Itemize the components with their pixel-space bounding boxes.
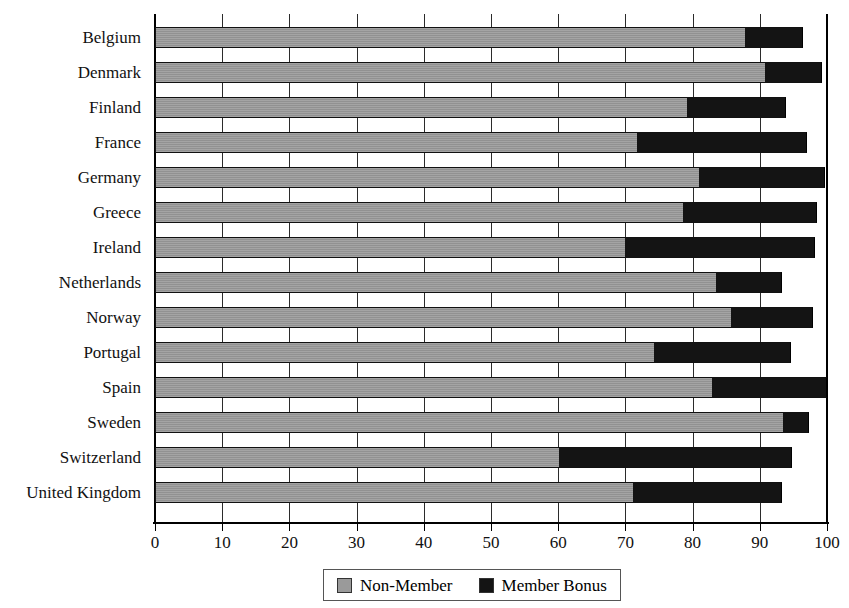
bar-segment-non-member <box>155 272 716 293</box>
x-tick-label-40: 40 <box>415 533 432 552</box>
gridline-0 <box>154 14 156 522</box>
bar-segment-member-bonus <box>654 342 790 363</box>
legend-swatch-icon <box>337 578 352 593</box>
bar-segment-non-member <box>155 27 745 48</box>
y-axis-label-denmark: Denmark <box>78 62 141 83</box>
x-tick-30 <box>357 524 358 531</box>
x-tick-10 <box>222 524 223 531</box>
gridline-60 <box>558 14 559 522</box>
x-tick-label-20: 20 <box>281 533 298 552</box>
gridline-70 <box>625 14 626 522</box>
plot-area <box>155 14 827 522</box>
cropped-title-remnant <box>0 0 849 8</box>
bar-segment-member-bonus <box>633 482 782 503</box>
x-tick-60 <box>558 524 559 531</box>
bar-segment-member-bonus <box>625 237 815 258</box>
bar-segment-non-member <box>155 62 765 83</box>
bar-segment-non-member <box>155 412 783 433</box>
bar-segment-member-bonus <box>637 132 807 153</box>
y-axis-label-united-kingdom: United Kingdom <box>26 482 141 503</box>
y-axis-category-labels: BelgiumDenmarkFinlandFranceGermanyGreece… <box>0 14 148 522</box>
x-tick-40 <box>424 524 425 531</box>
gridline-40 <box>424 14 425 522</box>
bar-segment-member-bonus <box>765 62 822 83</box>
gridline-90 <box>760 14 761 522</box>
x-tick-label-30: 30 <box>348 533 365 552</box>
x-tick-20 <box>289 524 290 531</box>
x-tick-80 <box>693 524 694 531</box>
bar-segment-non-member <box>155 202 683 223</box>
bar-segment-member-bonus <box>731 307 813 328</box>
gridline-10 <box>222 14 223 522</box>
y-axis-label-switzerland: Switzerland <box>60 447 141 468</box>
bar-segment-non-member <box>155 237 625 258</box>
chart-container: BelgiumDenmarkFinlandFranceGermanyGreece… <box>0 0 849 608</box>
x-axis: 0102030405060708090100 <box>155 522 827 523</box>
y-axis-label-france: France <box>95 132 141 153</box>
x-tick-50 <box>491 524 492 531</box>
bar-segment-member-bonus <box>559 447 792 468</box>
legend-entry-non-member: Non-Member <box>337 576 453 595</box>
legend-label: Member Bonus <box>502 576 607 595</box>
bar-segment-non-member <box>155 377 712 398</box>
bar-segment-non-member <box>155 342 654 363</box>
bar-segment-non-member <box>155 482 633 503</box>
y-axis-label-norway: Norway <box>86 307 141 328</box>
x-tick-label-90: 90 <box>751 533 768 552</box>
y-axis-label-greece: Greece <box>93 202 141 223</box>
bar-segment-member-bonus <box>783 412 809 433</box>
bar-segment-member-bonus <box>683 202 817 223</box>
legend-label: Non-Member <box>360 576 453 595</box>
bar-segment-member-bonus <box>716 272 782 293</box>
bar-segment-member-bonus <box>745 27 803 48</box>
gridline-100 <box>826 14 828 522</box>
x-tick-label-60: 60 <box>550 533 567 552</box>
x-tick-label-70: 70 <box>617 533 634 552</box>
gridline-30 <box>357 14 358 522</box>
x-tick-label-10: 10 <box>214 533 231 552</box>
y-axis-label-spain: Spain <box>102 377 141 398</box>
legend-swatch-icon <box>479 578 494 593</box>
bar-segment-member-bonus <box>699 167 825 188</box>
x-tick-label-0: 0 <box>151 533 160 552</box>
x-tick-90 <box>760 524 761 531</box>
x-tick-100 <box>827 524 828 531</box>
bar-segment-non-member <box>155 97 687 118</box>
chart-legend: Non-MemberMember Bonus <box>323 569 621 601</box>
y-axis-label-ireland: Ireland <box>93 237 141 258</box>
y-axis-label-portugal: Portugal <box>83 342 141 363</box>
x-tick-label-80: 80 <box>684 533 701 552</box>
bar-segment-non-member <box>155 167 699 188</box>
x-tick-70 <box>625 524 626 531</box>
legend-entry-member-bonus: Member Bonus <box>479 576 607 595</box>
gridline-80 <box>693 14 694 522</box>
x-tick-label-100: 100 <box>814 533 840 552</box>
y-axis-label-sweden: Sweden <box>87 412 141 433</box>
bar-segment-non-member <box>155 307 731 328</box>
x-tick-0 <box>155 524 156 531</box>
gridline-50 <box>491 14 492 522</box>
y-axis-label-finland: Finland <box>89 97 141 118</box>
y-axis-label-belgium: Belgium <box>82 27 141 48</box>
bar-segment-member-bonus <box>687 97 786 118</box>
bar-segment-member-bonus <box>712 377 827 398</box>
bar-segment-non-member <box>155 447 559 468</box>
y-axis-label-netherlands: Netherlands <box>59 272 141 293</box>
x-tick-label-50: 50 <box>483 533 500 552</box>
gridline-20 <box>289 14 290 522</box>
y-axis-label-germany: Germany <box>78 167 141 188</box>
bar-segment-non-member <box>155 132 637 153</box>
